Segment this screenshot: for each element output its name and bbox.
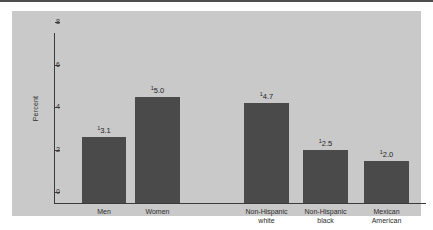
bar-value-non-hispanic-black: 12.5 — [303, 140, 348, 148]
bar-men[interactable] — [82, 137, 126, 203]
bar-non-hispanic-black[interactable] — [303, 150, 348, 203]
bar-value-men: 13.1 — [82, 127, 126, 135]
top-rule-divider — [0, 0, 433, 2]
bar-value-women: 15.0 — [135, 87, 180, 95]
y-tick-4: 4 — [12, 107, 60, 108]
bar-mexican-american[interactable] — [364, 161, 409, 204]
y-tick-6: 6 — [12, 65, 60, 66]
chart-panel: Percent 8 6 4 2 0 13.1 — [12, 11, 421, 216]
category-label-mexican-american: MexicanAmerican — [352, 207, 421, 225]
category-label-non-hispanic-black: Non-Hispanicblack — [291, 207, 360, 225]
y-tick-8: 8 — [12, 22, 60, 23]
bar-value-non-hispanic-white: 14.7 — [244, 93, 289, 101]
category-label-women: Women — [125, 207, 190, 216]
y-tick-0: 0 — [12, 192, 60, 193]
bar-chart-figure: Percent 8 6 4 2 0 13.1 — [0, 0, 433, 230]
y-tick-mark — [55, 22, 60, 23]
bar-women[interactable] — [135, 97, 180, 203]
x-axis-line — [54, 203, 426, 204]
y-tick-2: 2 — [12, 150, 60, 151]
plot-area: 13.1 Men 15.0 Women 14.7 Non-Hispanicwhi… — [54, 33, 426, 203]
bar-non-hispanic-white[interactable] — [244, 103, 289, 203]
bar-value-mexican-american: 12.0 — [364, 151, 409, 159]
